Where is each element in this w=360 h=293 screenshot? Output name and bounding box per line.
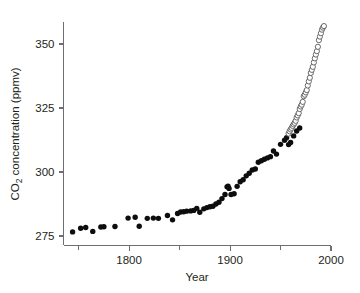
x-tick-label-1800: 1800 bbox=[116, 254, 142, 266]
co2-concentration-chart: 275300325350 180019002000 Year CO2 conce… bbox=[0, 0, 360, 293]
data-point-filled bbox=[268, 154, 273, 159]
y-axis-ticks: 275300325350 bbox=[35, 38, 63, 242]
data-point-filled bbox=[278, 142, 283, 147]
data-point-filled bbox=[125, 215, 130, 220]
data-point-filled bbox=[90, 229, 95, 234]
data-point-open bbox=[321, 23, 326, 28]
x-tick-label-1900: 1900 bbox=[217, 254, 243, 266]
chart-canvas: 275300325350 180019002000 Year CO2 conce… bbox=[0, 0, 360, 293]
x-tick-label-2000: 2000 bbox=[318, 254, 344, 266]
y-tick-label-325: 325 bbox=[35, 102, 54, 114]
data-point-filled bbox=[234, 184, 239, 189]
data-point-filled bbox=[297, 125, 302, 130]
mauna-loa-series bbox=[286, 23, 327, 136]
data-point-filled bbox=[226, 186, 231, 191]
y-tick-label-350: 350 bbox=[35, 38, 54, 50]
data-point-filled bbox=[83, 225, 88, 230]
data-point-filled bbox=[170, 217, 175, 222]
y-tick-label-300: 300 bbox=[35, 166, 54, 178]
data-point-filled bbox=[288, 140, 293, 145]
ice-core-series bbox=[70, 125, 303, 234]
data-point-filled bbox=[70, 229, 75, 234]
data-point-filled bbox=[253, 166, 258, 171]
data-point-filled bbox=[151, 215, 156, 220]
data-point-filled bbox=[274, 151, 279, 156]
data-point-filled bbox=[78, 226, 83, 231]
data-point-filled bbox=[165, 213, 170, 218]
x-axis-minor-ticks bbox=[79, 246, 281, 251]
data-point-filled bbox=[137, 224, 142, 229]
data-point-open bbox=[307, 75, 312, 80]
x-axis-title: Year bbox=[185, 271, 208, 283]
data-point-filled bbox=[101, 224, 106, 229]
data-point-filled bbox=[112, 224, 117, 229]
data-point-open bbox=[300, 99, 305, 104]
data-point-filled bbox=[222, 192, 227, 197]
y-tick-label-275: 275 bbox=[35, 230, 54, 242]
data-point-filled bbox=[156, 216, 161, 221]
data-point-filled bbox=[291, 133, 296, 138]
y-axis-title: CO2 concentration (ppmv) bbox=[9, 67, 24, 200]
data-point-filled bbox=[231, 191, 236, 196]
data-point-open bbox=[315, 44, 320, 49]
data-point-filled bbox=[132, 215, 137, 220]
data-point-filled bbox=[145, 216, 150, 221]
x-axis-ticks: 180019002000 bbox=[116, 246, 343, 267]
